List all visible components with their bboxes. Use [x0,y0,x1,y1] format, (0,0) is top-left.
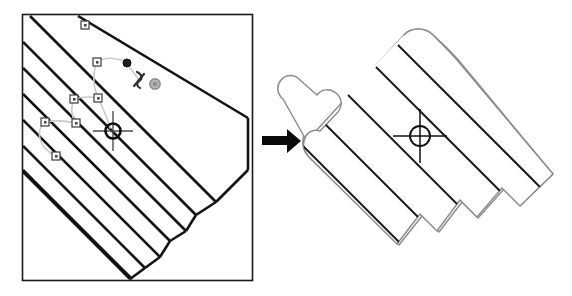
gray-dot-marker[interactable] [150,79,160,89]
waypoint-marker[interactable] [81,21,89,29]
waypoint-marker[interactable] [70,95,78,103]
figure-canvas: Surface patch extraction from ridged sca… [0,0,572,296]
source-scan-frame [23,15,253,281]
waypoint-marker[interactable] [94,94,102,102]
transform-arrow [262,129,301,153]
waypoint-marker[interactable] [93,58,101,66]
anchor-dot-marker[interactable] [123,59,131,67]
waypoint-marker[interactable] [41,118,49,126]
figure-svg [0,0,572,296]
left-panel-group [23,15,253,281]
waypoint-marker[interactable] [72,119,80,127]
right-panel-group [278,29,553,293]
waypoint-marker[interactable] [52,152,60,160]
